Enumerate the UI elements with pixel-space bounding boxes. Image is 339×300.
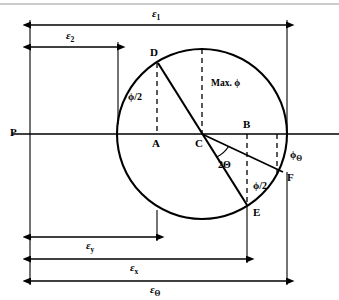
diagram-canvas xyxy=(0,0,339,300)
point-label-A: A xyxy=(152,138,160,149)
dimension-label-epsx: εx xyxy=(130,262,138,276)
angle-label-phi-theta: ϕΘ xyxy=(290,150,302,163)
dimension-label-epsx-sub: x xyxy=(135,267,139,276)
dimension-label-eps1: ε1 xyxy=(152,8,160,22)
annotation-max-phi: Max. ϕ xyxy=(211,79,240,89)
angle-arc-2theta xyxy=(217,147,229,158)
dimension-label-eps2: ε2 xyxy=(66,30,74,44)
dimension-label-eps1-sub: 1 xyxy=(157,13,161,22)
point-label-D: D xyxy=(150,47,158,58)
point-label-B: B xyxy=(243,119,250,130)
figure-root: P D A C B E F ϕ/2 Max. ϕ 2Θ ϕ/2 ϕΘ ε1 ε2… xyxy=(0,0,339,300)
point-label-E: E xyxy=(253,207,260,218)
point-label-P: P xyxy=(10,127,17,138)
dimension-label-eps2-sub: 2 xyxy=(71,35,75,44)
point-label-C: C xyxy=(195,138,203,149)
dimension-label-epsy: εy xyxy=(86,240,94,254)
angle-label-phi-theta-sub: Θ xyxy=(296,154,302,163)
angle-label-phi-half-lower: ϕ/2 xyxy=(253,181,267,191)
dimension-label-epstheta: εΘ xyxy=(150,284,160,298)
dimension-label-epstheta-sub: Θ xyxy=(155,289,161,298)
angle-label-two-theta: 2Θ xyxy=(218,160,231,170)
point-label-F: F xyxy=(287,172,294,183)
dimension-label-epsy-sub: y xyxy=(91,245,95,254)
angle-label-phi-half-upper: ϕ/2 xyxy=(128,92,142,102)
